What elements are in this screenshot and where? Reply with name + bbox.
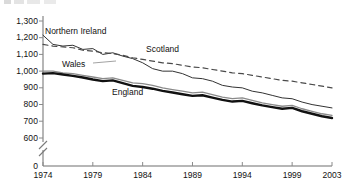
x-tick-label: 2003 bbox=[312, 170, 346, 180]
wales-leader-line bbox=[93, 61, 116, 63]
series-label-england: England bbox=[112, 87, 143, 97]
y-tick-label: 900 bbox=[0, 82, 38, 92]
series-label-scotland: Scotland bbox=[146, 44, 179, 54]
series-line-england bbox=[43, 73, 332, 118]
y-tick-label: 600 bbox=[0, 133, 38, 143]
x-tick-label: 1984 bbox=[123, 170, 163, 180]
x-tick-label: 1989 bbox=[172, 170, 212, 180]
x-tick-label: 1979 bbox=[73, 170, 113, 180]
axes-group bbox=[39, 16, 332, 166]
y-axis-ticks bbox=[39, 21, 43, 138]
x-axis-ticks bbox=[43, 162, 332, 166]
series-line-scotland bbox=[43, 44, 332, 87]
series-label-wales: Wales bbox=[62, 59, 85, 69]
x-tick-label: 1999 bbox=[272, 170, 312, 180]
x-tick-label: 1994 bbox=[222, 170, 262, 180]
y-tick-label: 700 bbox=[0, 116, 38, 126]
series-lines-group bbox=[43, 35, 332, 118]
x-tick-label: 1974 bbox=[23, 170, 63, 180]
y-tick-label: 1,300 bbox=[0, 16, 38, 26]
series-line-northern-ireland bbox=[43, 35, 332, 108]
y-tick-label: 1,200 bbox=[0, 32, 38, 42]
y-tick-label: 0 bbox=[0, 161, 38, 171]
series-label-northern-ireland: Northern Ireland bbox=[45, 26, 106, 36]
y-tick-label: 1,100 bbox=[0, 49, 38, 59]
y-tick-label: 800 bbox=[0, 99, 38, 109]
y-tick-label: 1,000 bbox=[0, 66, 38, 76]
